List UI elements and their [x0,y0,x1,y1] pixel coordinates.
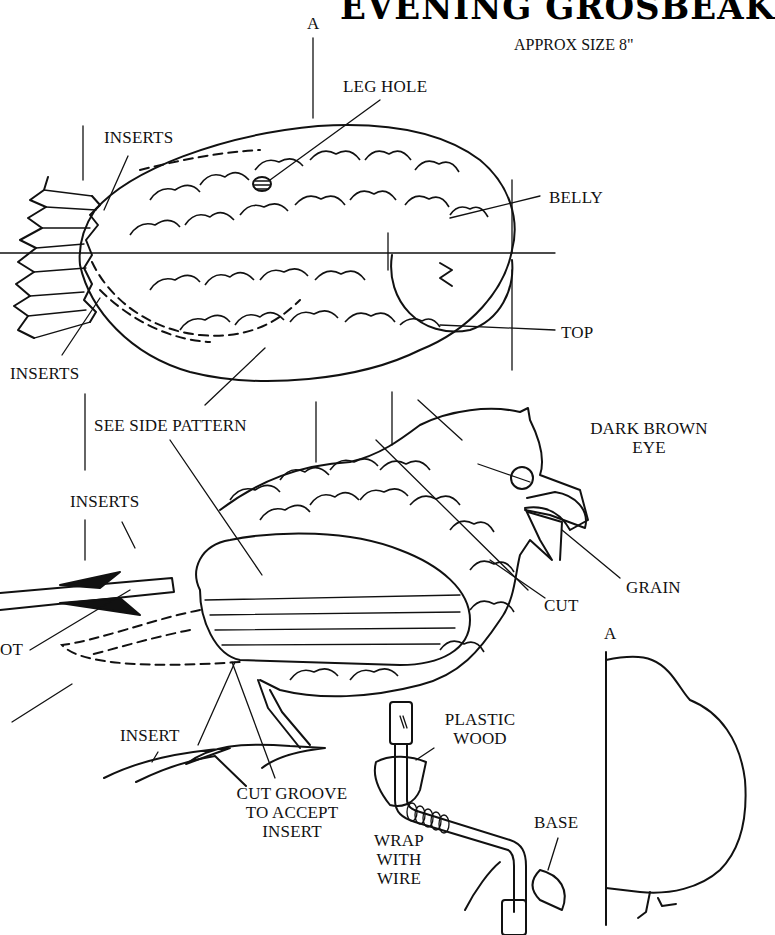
label-foot-partial: OT [0,640,23,659]
label-inserts-tail-bottom: INSERTS [10,364,79,383]
top-view-section-marker-a: A [307,14,319,33]
label-inserts-tail-top: INSERTS [104,128,173,147]
label-plastic-wood-line1: PLASTIC [430,710,530,729]
label-grain: GRAIN [626,578,681,597]
label-wrap-line3: WIRE [364,869,434,888]
label-cut-groove-line2: TO ACCEPT [222,803,362,822]
label-plastic-wood-line2: WOOD [430,729,530,748]
label-plastic-wood: PLASTIC WOOD [430,710,530,748]
label-belly: BELLY [549,188,603,207]
label-cut-groove-line3: INSERT [222,822,362,841]
section-a-marker: A [604,624,616,643]
label-wrap-line1: WRAP [364,831,434,850]
section-a-drawing [606,652,746,925]
label-leg-hole: LEG HOLE [343,77,427,96]
label-see-side-pattern: SEE SIDE PATTERN [94,416,247,435]
label-top: TOP [561,323,593,342]
top-view-drawing [0,38,555,405]
label-inserts-side: INSERTS [70,492,139,511]
label-wrap-with-wire: WRAP WITH WIRE [364,831,434,888]
label-dark-brown-eye: DARK BROWN EYE [582,419,716,457]
side-view-drawing [0,392,620,748]
label-cut-groove: CUT GROOVE TO ACCEPT INSERT [222,784,362,841]
label-insert: INSERT [120,726,180,745]
label-cut-groove-line1: CUT GROOVE [222,784,362,803]
label-wrap-line2: WITH [364,850,434,869]
label-dark-brown-eye-line1: DARK BROWN [582,419,716,438]
label-dark-brown-eye-line2: EYE [582,438,716,457]
label-cut: CUT [544,596,579,615]
label-base: BASE [534,813,578,832]
